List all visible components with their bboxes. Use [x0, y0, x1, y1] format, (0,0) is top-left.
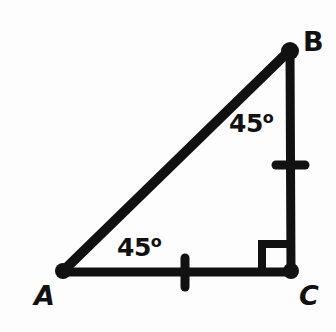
- geometry-figure: A B C 45o 45o: [0, 0, 336, 332]
- degree-symbol-b: o: [263, 108, 274, 127]
- angle-label-a: 45o: [117, 234, 161, 260]
- angle-value-a: 45: [117, 233, 151, 262]
- angle-value-b: 45: [229, 109, 263, 138]
- vertex-dot-a: [55, 263, 71, 279]
- degree-symbol-a: o: [151, 232, 162, 251]
- vertex-label-c: C: [299, 282, 319, 309]
- vertex-dot-c: [283, 263, 299, 279]
- vertex-dot-b: [281, 42, 299, 60]
- angle-label-b: 45o: [229, 110, 273, 136]
- vertex-label-b: B: [303, 28, 324, 55]
- vertex-label-a: A: [34, 282, 55, 309]
- side-ab-hypotenuse: [62, 50, 290, 272]
